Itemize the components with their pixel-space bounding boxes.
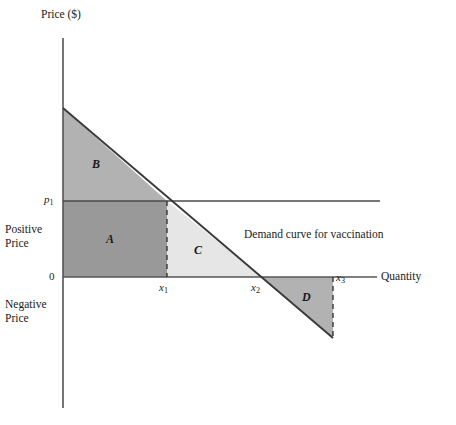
x-axis-tick-x2: x2 xyxy=(251,281,260,296)
region-b-label: B xyxy=(92,157,100,172)
x-axis-tick-x3: x3 xyxy=(336,271,345,286)
demand-curve-figure: Price ($) Quantity PositivePrice Negativ… xyxy=(0,0,456,425)
region-a-label: A xyxy=(106,232,114,247)
origin-tick-label: 0 xyxy=(49,270,55,283)
y-axis-tick-p1: p1 xyxy=(44,193,54,208)
x-axis-tick-x1: x1 xyxy=(159,281,168,296)
demand-curve-annotation: Demand curve for vaccination xyxy=(244,227,384,241)
x-axis-title: Quantity xyxy=(381,269,421,283)
positive-price-label: PositivePrice xyxy=(5,222,42,250)
region-a-shape xyxy=(63,201,167,277)
region-d-label: D xyxy=(302,290,311,305)
y-axis-title: Price ($) xyxy=(41,7,81,21)
negative-price-label: NegativePrice xyxy=(5,297,47,325)
region-c-label: C xyxy=(194,243,202,258)
plot-canvas xyxy=(0,0,456,425)
